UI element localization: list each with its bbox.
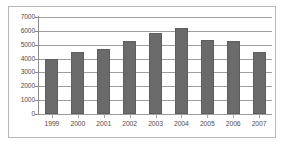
x-tick-label-2003: 2003: [142, 120, 170, 128]
x-tick-label-2001: 2001: [90, 120, 118, 128]
plot-area: [39, 17, 272, 114]
bar-2001: [97, 49, 110, 114]
y-tick-label-7000: 7000: [1, 13, 35, 20]
bar-2002: [123, 41, 136, 114]
x-tick-label-2002: 2002: [116, 120, 144, 128]
y-tick-label-0: 0: [1, 110, 35, 117]
y-tick-mark-0: [35, 114, 39, 115]
x-tick-mark-1999: [52, 114, 53, 118]
y-tick-label-1000: 1000: [1, 96, 35, 103]
x-tick-mark-2002: [130, 114, 131, 118]
y-tick-mark-4000: [35, 59, 39, 60]
y-tick-label-2000: 2000: [1, 82, 35, 89]
x-tick-mark-2000: [78, 114, 79, 118]
y-tick-label-6000: 6000: [1, 27, 35, 34]
bar-2004: [175, 28, 188, 114]
y-tick-mark-7000: [35, 17, 39, 18]
x-tick-label-2005: 2005: [193, 120, 221, 128]
x-tick-label-2006: 2006: [219, 120, 247, 128]
x-tick-label-1999: 1999: [38, 120, 66, 128]
x-tick-label-2004: 2004: [167, 120, 195, 128]
y-tick-label-5000: 5000: [1, 41, 35, 48]
x-tick-label-2007: 2007: [245, 120, 273, 128]
y-axis-tick-labels: 01000200030004000500060007000: [0, 0, 35, 147]
x-tick-mark-2001: [104, 114, 105, 118]
y-tick-mark-1000: [35, 100, 39, 101]
bar-2007: [253, 52, 266, 114]
bar-2006: [227, 41, 240, 114]
gridline-6000: [39, 31, 272, 32]
y-tick-mark-2000: [35, 86, 39, 87]
x-tick-label-2000: 2000: [64, 120, 92, 128]
y-tick-mark-3000: [35, 72, 39, 73]
y-tick-mark-6000: [35, 31, 39, 32]
y-tick-label-3000: 3000: [1, 68, 35, 75]
bar-2000: [71, 52, 84, 114]
bar-2005: [201, 40, 214, 114]
x-tick-mark-2006: [233, 114, 234, 118]
y-tick-mark-5000: [35, 45, 39, 46]
x-tick-mark-2003: [156, 114, 157, 118]
x-tick-mark-2007: [259, 114, 260, 118]
gridline-7000: [39, 17, 272, 18]
bar-chart-figure: 01000200030004000500060007000 1999200020…: [0, 0, 286, 147]
x-tick-mark-2004: [181, 114, 182, 118]
y-tick-label-4000: 4000: [1, 55, 35, 62]
bar-1999: [45, 59, 58, 114]
bar-2003: [149, 33, 162, 114]
x-tick-mark-2005: [207, 114, 208, 118]
